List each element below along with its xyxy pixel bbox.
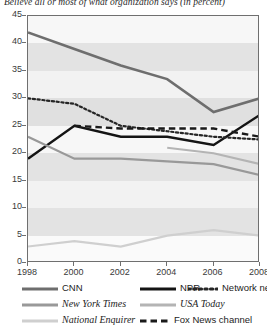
- x-axis-tick: [27, 262, 28, 266]
- chart-title: Believe all or most of what organization…: [4, 0, 266, 7]
- y-axis-tick: [22, 42, 26, 43]
- legend-label: USA Today: [180, 297, 225, 310]
- y-axis-tick-label: 20: [0, 146, 22, 156]
- chart-legend: CNNNPRNetwork newsNew York TimesUSA Toda…: [0, 281, 267, 329]
- y-axis-tick: [22, 15, 26, 16]
- y-axis-tick: [22, 235, 26, 236]
- plot-area: [27, 15, 259, 262]
- y-axis-tick-label: 0: [0, 256, 22, 266]
- y-axis-tick: [22, 97, 26, 98]
- legend-label: Fox News channel: [174, 313, 252, 326]
- series-line-cnn: [28, 32, 259, 112]
- legend-label: CNN: [62, 281, 83, 294]
- legend-label: National Enquirer: [62, 313, 135, 326]
- y-axis-tick: [22, 262, 26, 263]
- y-axis-tick-label: 10: [0, 201, 22, 211]
- y-axis-tick-label: 35: [0, 64, 22, 74]
- x-axis-tick-label: 2000: [53, 267, 93, 277]
- y-axis-tick-label: 25: [0, 119, 22, 129]
- legend-label: New York Times: [62, 297, 126, 310]
- x-axis-tick-label: 2004: [146, 267, 186, 277]
- x-axis-tick-label: 1998: [7, 267, 47, 277]
- y-axis-tick-label: 5: [0, 229, 22, 239]
- y-axis-tick-label: 15: [0, 174, 22, 184]
- y-axis-tick: [22, 70, 26, 71]
- series-lines: [28, 16, 259, 262]
- x-axis-tick-label: 2002: [100, 267, 140, 277]
- x-axis-tick: [120, 262, 121, 266]
- x-axis-tick: [259, 262, 260, 266]
- legend-swatch-icon: [22, 303, 58, 306]
- y-axis-tick-label: 30: [0, 91, 22, 101]
- y-axis-tick: [22, 152, 26, 153]
- y-axis-tick: [22, 180, 26, 181]
- y-axis-tick: [22, 207, 26, 208]
- chart-figure: Believe all or most of what organization…: [0, 0, 267, 329]
- x-axis-tick-label: 2006: [193, 267, 233, 277]
- x-axis-tick-label: 2008: [239, 267, 267, 277]
- legend-label: Network news: [222, 281, 267, 294]
- legend-swatch-icon: [22, 287, 58, 290]
- x-axis-tick: [166, 262, 167, 266]
- series-line-national-enquirer: [28, 230, 259, 246]
- y-axis-tick: [22, 125, 26, 126]
- x-axis-tick: [73, 262, 74, 266]
- y-axis-tick-label: 45: [0, 9, 22, 19]
- legend-swatch-icon: [22, 319, 58, 322]
- legend-swatch-icon: [140, 287, 176, 290]
- x-axis-tick: [213, 262, 214, 266]
- legend-swatch-icon: [188, 287, 218, 290]
- legend-swatch-icon: [140, 303, 176, 306]
- y-axis-tick-label: 40: [0, 36, 22, 46]
- legend-swatch-icon: [140, 319, 170, 322]
